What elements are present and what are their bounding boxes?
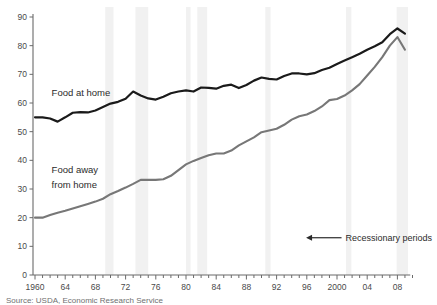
recession-band [186, 7, 191, 275]
x-axis-tick-label: 1960 [26, 282, 45, 292]
y-axis-tick-label: 90 [18, 12, 28, 22]
recession-band [265, 7, 270, 275]
y-axis-tick-label: 40 [18, 155, 28, 165]
chart-figure: 0102030405060708090 19606468727680848892… [0, 0, 437, 305]
source-note: Source: USDA, Economic Research Service [6, 296, 163, 305]
series-label-food-away-line1: Food away [52, 164, 99, 175]
x-axis-tick-label: 04 [362, 282, 372, 292]
y-axis-tick-label: 80 [18, 41, 28, 51]
y-axis-tick-label: 0 [22, 270, 27, 280]
x-axis-tick-label: 64 [60, 282, 70, 292]
y-axis-tick-label: 60 [18, 98, 28, 108]
x-axis-tick-label: 68 [91, 282, 101, 292]
x-axis-tick-label: 76 [151, 282, 161, 292]
y-axis-tick-label: 20 [18, 213, 28, 223]
x-axis-tick-label: 2000 [328, 282, 347, 292]
x-axis-tick-label: 88 [242, 282, 252, 292]
x-axis-tick-label: 08 [393, 282, 403, 292]
recession-band [105, 7, 113, 275]
food-expenditure-line-chart: 0102030405060708090 19606468727680848892… [0, 0, 437, 305]
x-axis-tick-label: 84 [211, 282, 221, 292]
y-axis-tick-label: 30 [18, 184, 28, 194]
series-label-food-away-line2: from home [52, 179, 97, 190]
y-axis-tick-label: 50 [18, 127, 28, 137]
recession-band [197, 7, 207, 275]
series-label-food-at-home: Food at home [52, 87, 111, 98]
x-axis-tick-label: 92 [272, 282, 282, 292]
recession-band [135, 7, 148, 275]
x-axis-tick-label: 80 [181, 282, 191, 292]
annotation-label: Recessionary periods [346, 233, 433, 243]
y-axis-tick-label: 70 [18, 69, 28, 79]
x-axis-tick-label: 96 [302, 282, 312, 292]
y-axis-tick-label: 10 [18, 241, 28, 251]
x-axis-tick-label: 72 [121, 282, 131, 292]
